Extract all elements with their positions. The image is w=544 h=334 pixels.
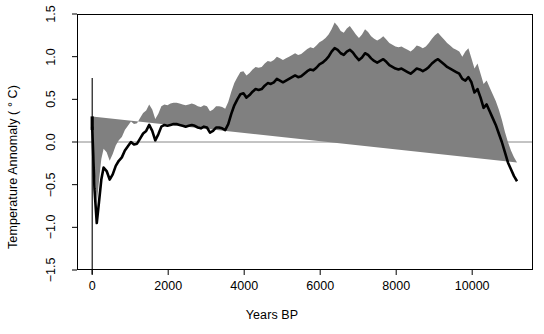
uncertainty-band <box>92 23 517 204</box>
plot-area <box>0 0 544 334</box>
uncertainty-band-path <box>92 23 517 204</box>
temperature-anomaly-chart: Temperature Annomaly ( ° C) Years BP −1.… <box>0 0 544 334</box>
